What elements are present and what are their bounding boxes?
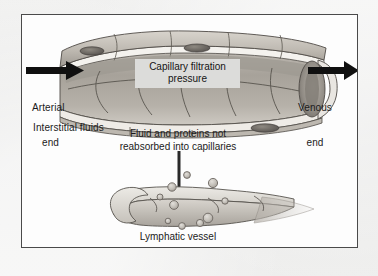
figure-root: Arterial end Venous end Interstitial flu… <box>0 0 378 276</box>
venous-end-line-1: Venous <box>298 102 332 114</box>
capillary-filtration-pressure-label: Capillary filtration pressure <box>135 59 240 88</box>
fluid-caption-line-1: Fluid and proteins not <box>78 128 278 141</box>
arterial-end-line-2: end <box>32 137 64 149</box>
venous-end-line-2: end <box>298 137 332 149</box>
lymphatic-vessel-caption: Lymphatic vessel <box>78 231 278 242</box>
illustration-panel: Arterial end Venous end Interstitial flu… <box>21 14 358 248</box>
arterial-end-line-1: Arterial <box>32 102 64 114</box>
fluid-caption-line-2: reabsorbed into capillaries <box>78 141 278 154</box>
filtration-line-2: pressure <box>139 73 236 85</box>
venous-end-label: Venous end <box>298 79 332 171</box>
fluid-proteins-caption: Fluid and proteins not reabsorbed into c… <box>78 128 278 153</box>
filtration-line-1: Capillary filtration <box>139 61 236 73</box>
